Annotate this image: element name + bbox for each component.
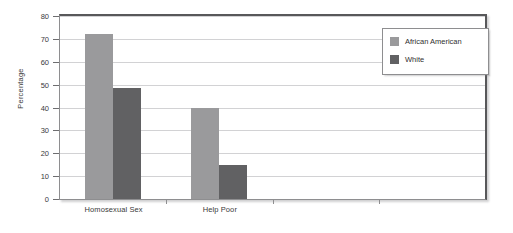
y-axis-tick-label: 0 <box>19 195 49 204</box>
y-axis-tick-label: 80 <box>19 12 49 21</box>
bar-african-american <box>85 34 113 199</box>
legend-label-african-american: African American <box>405 37 462 46</box>
legend-item-african-american: African American <box>390 37 462 46</box>
y-axis-tick-label: 60 <box>19 57 49 66</box>
legend-swatch-african-american <box>390 37 399 46</box>
bar-white <box>113 88 141 199</box>
gridline <box>60 16 485 17</box>
bar-white <box>219 165 247 199</box>
y-axis-tick <box>53 176 59 177</box>
y-axis-tick-label: 40 <box>19 103 49 112</box>
legend-swatch-white <box>390 55 399 64</box>
y-axis-tick-label: 20 <box>19 149 49 158</box>
x-axis-tick-label: Help Poor <box>203 205 237 214</box>
x-axis-tick <box>273 199 274 204</box>
y-axis-tick <box>53 85 59 86</box>
y-axis-tick <box>53 199 59 200</box>
y-axis-tick-label: 10 <box>19 172 49 181</box>
x-axis-tick <box>379 199 380 204</box>
bar-chart: Percentage 01020304050607080 Homosexual … <box>0 0 513 233</box>
y-axis-tick <box>53 39 59 40</box>
y-axis-tick <box>53 62 59 63</box>
x-axis-tick <box>166 199 167 204</box>
chart-legend: African American White <box>382 28 489 75</box>
y-axis-tick-label: 70 <box>19 34 49 43</box>
bar-african-american <box>191 108 219 200</box>
y-axis-tick-label: 50 <box>19 80 49 89</box>
y-axis-tick <box>53 108 59 109</box>
gridline <box>60 85 485 86</box>
y-axis-tick <box>53 16 59 17</box>
x-axis-tick-label: Homosexual Sex <box>85 205 143 214</box>
y-axis-tick <box>53 130 59 131</box>
legend-item-white: White <box>390 55 424 64</box>
legend-label-white: White <box>405 55 424 64</box>
y-axis-tick-label: 30 <box>19 126 49 135</box>
y-axis-tick <box>53 153 59 154</box>
